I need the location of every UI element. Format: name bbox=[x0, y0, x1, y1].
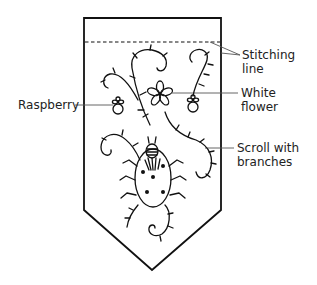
label-stitching-line-2: line bbox=[242, 62, 295, 76]
raspberry-left bbox=[112, 97, 123, 114]
raspberry-right bbox=[187, 95, 198, 112]
label-scroll-1: Scroll with bbox=[237, 141, 299, 155]
scroll-upper-right bbox=[190, 49, 213, 96]
label-scroll-with-branches: Scroll with branches bbox=[237, 141, 299, 169]
label-raspberry: Raspberry bbox=[18, 98, 79, 112]
scroll-bottom bbox=[125, 205, 173, 241]
label-scroll-2: branches bbox=[237, 155, 299, 169]
label-stitching-line-1: Stitching bbox=[242, 48, 295, 62]
white-flower bbox=[147, 81, 174, 107]
label-raspberry-1: Raspberry bbox=[18, 98, 79, 112]
beetle bbox=[120, 137, 186, 207]
scroll-mid-left bbox=[101, 130, 140, 160]
label-white-flower-2: flower bbox=[241, 100, 278, 114]
label-white-flower-1: White bbox=[241, 86, 278, 100]
label-stitching-line: Stitching line bbox=[242, 48, 295, 76]
label-white-flower: White flower bbox=[241, 86, 278, 114]
embroidery-diagram: Stitching line White flower Raspberry Sc… bbox=[0, 0, 317, 285]
scroll-with-branches bbox=[165, 112, 216, 178]
